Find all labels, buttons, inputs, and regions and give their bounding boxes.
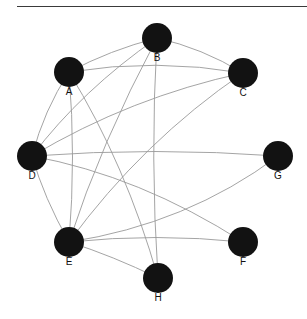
graph-edge-b-h xyxy=(154,38,158,278)
graph-node-g[interactable]: G xyxy=(263,141,293,181)
node-circle-c[interactable] xyxy=(228,58,258,88)
node-label-f: F xyxy=(240,256,246,267)
graph-node-e[interactable]: E xyxy=(54,227,84,267)
graph-node-a[interactable]: A xyxy=(54,57,84,97)
graph-node-d[interactable]: D xyxy=(17,141,47,181)
graph-node-c[interactable]: C xyxy=(228,58,258,98)
graph-edge-d-g xyxy=(32,152,278,157)
node-label-c: C xyxy=(239,87,246,98)
graph-edge-a-e xyxy=(69,72,73,242)
graph-node-f[interactable]: F xyxy=(228,227,258,267)
node-circle-a[interactable] xyxy=(54,57,84,87)
graph-edge-c-e xyxy=(69,73,243,242)
graph-node-h[interactable]: H xyxy=(143,263,173,303)
node-label-h: H xyxy=(154,292,161,303)
node-circle-h[interactable] xyxy=(143,263,173,293)
node-label-e: E xyxy=(66,256,73,267)
graph-node-b[interactable]: B xyxy=(142,23,172,63)
graph-diagram-page: ABCDEFGH xyxy=(0,0,307,319)
node-circle-d[interactable] xyxy=(17,141,47,171)
graph-canvas: ABCDEFGH xyxy=(0,0,307,319)
node-circle-g[interactable] xyxy=(263,141,293,171)
node-label-d: D xyxy=(28,170,35,181)
node-circle-b[interactable] xyxy=(142,23,172,53)
node-circle-f[interactable] xyxy=(228,227,258,257)
node-label-a: A xyxy=(66,86,73,97)
node-label-b: B xyxy=(154,52,161,63)
node-circle-e[interactable] xyxy=(54,227,84,257)
node-label-g: G xyxy=(274,170,282,181)
graph-edge-b-d xyxy=(32,38,157,156)
